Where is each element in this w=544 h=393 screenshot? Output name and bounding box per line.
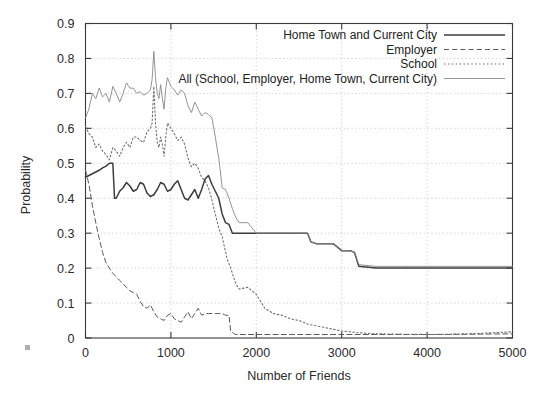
y-tick-label: 0.7: [57, 87, 74, 101]
x-tick-label: 4000: [413, 346, 441, 360]
legend-label-2: School: [400, 57, 437, 71]
y-tick-label: 0.6: [57, 122, 74, 136]
x-axis-title: Number of Friends: [247, 369, 351, 383]
legend-label-1: Employer: [386, 43, 437, 57]
x-tick-label: 3000: [328, 346, 356, 360]
y-tick-label: 0.3: [57, 227, 74, 241]
y-tick-label: 0.9: [57, 17, 74, 31]
y-tick-label: 0.8: [57, 52, 74, 66]
y-tick-label: 0: [68, 332, 75, 346]
y-tick-label: 0.2: [57, 262, 74, 276]
x-tick-label: 2000: [242, 346, 270, 360]
y-tick-label: 0.4: [57, 192, 74, 206]
x-tick-label: 0: [82, 346, 89, 360]
legend-label-0: Home Town and Current City: [283, 28, 437, 42]
scan-artifact-speck: [25, 345, 30, 350]
x-tick-label: 5000: [499, 346, 527, 360]
chart-container: 00.10.20.30.40.50.60.70.80.9 01000200030…: [0, 0, 544, 393]
y-tick-label: 0.5: [57, 157, 74, 171]
probability-vs-friends-chart: 00.10.20.30.40.50.60.70.80.9 01000200030…: [0, 0, 544, 393]
legend-label-3: All (School, Employer, Home Town, Curren…: [178, 72, 437, 86]
y-axis-title: Probability: [19, 155, 33, 214]
x-tick-label: 1000: [157, 346, 185, 360]
y-tick-label: 0.1: [57, 297, 74, 311]
